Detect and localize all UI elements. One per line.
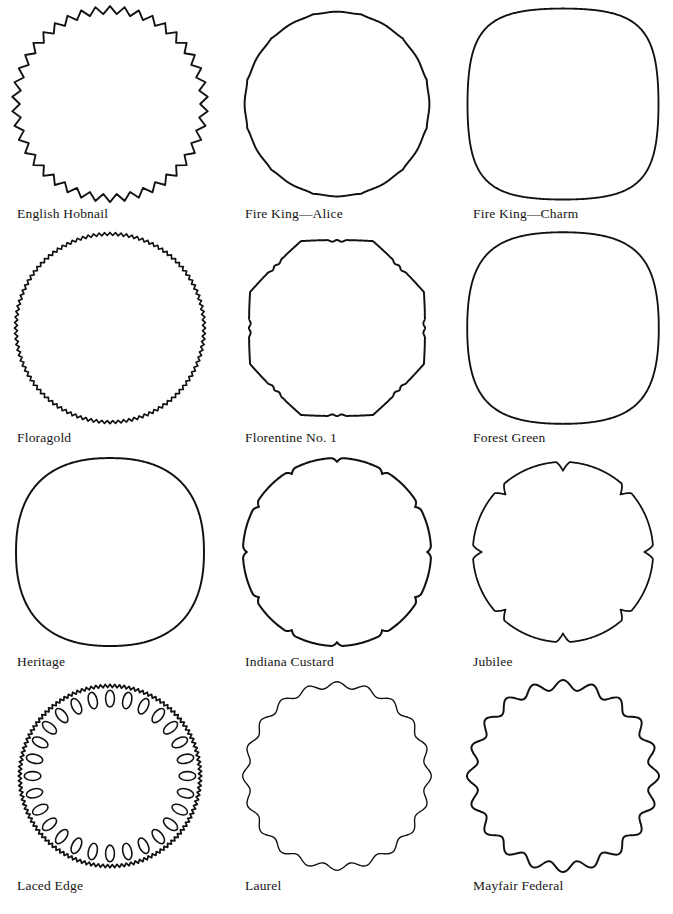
figure-cell-florentine-no-1: Florentine No. 1	[228, 232, 456, 456]
figure-caption: Laurel	[245, 878, 281, 894]
figure-caption: Floragold	[17, 430, 71, 446]
lace-hole	[179, 772, 196, 781]
lace-hole	[161, 816, 180, 833]
lace-hole	[25, 787, 43, 799]
lace-hole	[176, 753, 194, 765]
plate-outline-svg	[463, 232, 663, 428]
plate-shape-heritage	[10, 456, 210, 652]
lace-hole	[150, 706, 167, 725]
plate-rim-outline	[473, 462, 653, 642]
figure-cell-laurel: Laurel	[228, 680, 456, 904]
figure-cell-english-hobnail: English Hobnail	[0, 8, 228, 232]
lace-hole	[69, 697, 84, 716]
plate-outline-svg	[10, 8, 210, 204]
plate-outline-svg	[237, 232, 437, 428]
plate-rim-outline	[467, 232, 659, 424]
lace-hole	[176, 787, 194, 799]
figure-caption: Fire King—Charm	[473, 206, 578, 222]
lace-hole	[53, 706, 70, 725]
figure-cell-jubilee: Jubilee	[456, 456, 673, 680]
figure-cell-floragold: Floragold	[0, 232, 228, 456]
lace-hole	[87, 691, 99, 709]
figure-caption: Mayfair Federal	[473, 878, 563, 894]
plate-rim-outline	[468, 9, 659, 200]
plate-shape-florentine-no-1	[237, 232, 437, 428]
plate-shape-fire-king-alice	[237, 8, 437, 204]
lace-hole	[106, 690, 115, 707]
lace-hole	[106, 845, 115, 862]
figure-cell-forest-green: Forest Green	[456, 232, 673, 456]
figure-grid: English Hobnail Fire King—Alice Fire Kin…	[0, 0, 673, 914]
plate-rim-outline	[245, 12, 430, 197]
plate-outline-svg	[10, 232, 210, 428]
figure-cell-indiana-custard: Indiana Custard	[228, 456, 456, 680]
figure-caption: Florentine No. 1	[245, 430, 337, 446]
figure-cell-fire-king-charm: Fire King—Charm	[456, 8, 673, 232]
lace-hole	[40, 816, 59, 833]
plate-rim-outline	[14, 232, 205, 423]
plate-outline-svg	[237, 456, 437, 652]
plate-shape-english-hobnail	[10, 8, 210, 204]
lace-hole	[121, 842, 133, 860]
plate-rim-outline	[243, 458, 431, 646]
plate-shape-floragold	[10, 232, 210, 428]
lace-hole	[136, 697, 151, 716]
plate-rim-outline	[16, 458, 204, 646]
lace-hole	[170, 735, 189, 750]
plate-rim-outline	[243, 682, 432, 871]
figure-caption: Indiana Custard	[245, 654, 334, 670]
lace-hole	[53, 827, 70, 846]
plate-shapes-page: English Hobnail Fire King—Alice Fire Kin…	[0, 0, 673, 914]
lace-hole	[31, 735, 50, 750]
lace-hole	[24, 772, 41, 781]
plate-shape-forest-green	[463, 232, 663, 428]
lace-hole	[121, 691, 133, 709]
plate-shape-mayfair-federal	[463, 680, 663, 876]
plate-rim-outline	[12, 6, 207, 202]
figure-cell-mayfair-federal: Mayfair Federal	[456, 680, 673, 904]
plate-rim-outline	[467, 680, 659, 872]
plate-outline-svg	[10, 456, 210, 652]
lace-hole	[161, 719, 180, 736]
plate-rim-outline	[249, 240, 425, 416]
plate-outline-svg	[237, 8, 437, 204]
plate-outline-svg	[10, 680, 210, 876]
lace-hole	[40, 719, 59, 736]
lace-hole	[170, 802, 189, 817]
figure-caption: Laced Edge	[17, 878, 83, 894]
plate-outline-svg	[463, 456, 663, 652]
plate-shape-laced-edge	[10, 680, 210, 876]
lace-hole	[136, 836, 151, 855]
figure-caption: Forest Green	[473, 430, 546, 446]
figure-caption: English Hobnail	[17, 206, 108, 222]
plate-outline-svg	[463, 8, 663, 204]
figure-caption: Jubilee	[473, 654, 513, 670]
plate-shape-fire-king-charm	[463, 8, 663, 204]
lace-hole	[150, 827, 167, 846]
lace-hole-ring	[24, 690, 196, 862]
plate-shape-jubilee	[463, 456, 663, 652]
figure-cell-fire-king-alice: Fire King—Alice	[228, 8, 456, 232]
lace-hole	[31, 802, 50, 817]
plate-outline-svg	[237, 680, 437, 876]
figure-caption: Heritage	[17, 654, 65, 670]
plate-shape-indiana-custard	[237, 456, 437, 652]
lace-hole	[69, 836, 84, 855]
figure-cell-heritage: Heritage	[0, 456, 228, 680]
figure-cell-laced-edge: Laced Edge	[0, 680, 228, 904]
plate-outline-svg	[463, 680, 663, 876]
lace-hole	[25, 753, 43, 765]
plate-shape-laurel	[237, 680, 437, 876]
figure-caption: Fire King—Alice	[245, 206, 343, 222]
plate-rim-outline	[18, 684, 201, 867]
lace-hole	[87, 842, 99, 860]
